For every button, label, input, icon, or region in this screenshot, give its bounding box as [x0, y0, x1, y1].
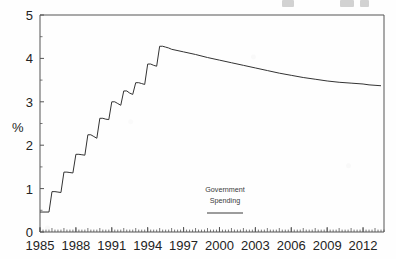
y-axis-title: % — [12, 120, 24, 135]
y-tick-label: 3 — [26, 95, 33, 110]
x-tick-label: 1997 — [169, 238, 198, 253]
x-tick-label: 1988 — [61, 238, 90, 253]
x-tick-label: 2009 — [313, 238, 342, 253]
y-tick-label: 1 — [26, 182, 33, 197]
y-tick-label: 4 — [26, 51, 33, 66]
y-tick-label: 2 — [26, 138, 33, 153]
axis-group: 0123451985198819911994199720002003200620… — [26, 8, 384, 253]
line-chart-plot: 0123451985198819911994199720002003200620… — [0, 0, 396, 259]
annotation-line-2: Spending — [210, 196, 240, 205]
y-tick-label: 5 — [26, 8, 33, 23]
x-tick-label: 2003 — [241, 238, 270, 253]
annotation-line-1: Government — [205, 185, 245, 194]
x-tick-label: 1985 — [26, 238, 55, 253]
x-tick-label: 2006 — [277, 238, 306, 253]
x-tick-label: 2012 — [349, 238, 378, 253]
x-tick-label: 1994 — [133, 238, 162, 253]
x-tick-label: 1991 — [97, 238, 126, 253]
x-tick-label: 2000 — [205, 238, 234, 253]
chart-figure: 0123451985198819911994199720002003200620… — [0, 0, 396, 259]
